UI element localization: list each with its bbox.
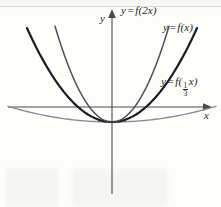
label-f13x-equals: = <box>166 75 175 87</box>
y-axis-label: y <box>100 13 105 24</box>
fraction-one-third: 13 <box>183 82 189 98</box>
x-axis-label: x <box>204 110 209 121</box>
y-axis-arrowhead <box>108 9 116 18</box>
label-fx-equals: = <box>168 21 177 33</box>
label-f13x-rhs-close: x) <box>189 75 198 87</box>
fraction-denominator: 3 <box>183 89 189 98</box>
curve-label-f-one-third-x: y=f(13x) <box>161 76 197 98</box>
label-f13x-rhs-open: f( <box>175 75 182 87</box>
label-fx-rhs: f(x) <box>177 21 193 33</box>
label-f2x-rhs: f(2x) <box>135 4 156 16</box>
curve-label-f-two-x: y=f(2x) <box>121 5 157 17</box>
math-figure-parabola-scalings: y x y=f(2x) y=f(x) y=f(13x) <box>0 0 221 207</box>
curve-label-f-x: y=f(x) <box>163 22 193 34</box>
fraction-numerator: 1 <box>183 82 189 90</box>
label-f2x-equals: = <box>126 4 135 16</box>
